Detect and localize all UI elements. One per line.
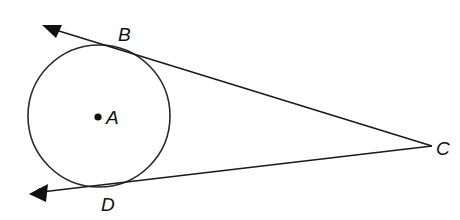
center-point-A <box>94 113 101 120</box>
diagram-canvas: B A C D <box>0 0 460 220</box>
tangent-circle-diagram: B A C D <box>0 0 460 220</box>
ray-CB <box>46 27 432 146</box>
ray-CD <box>33 146 432 193</box>
label-C: C <box>436 138 450 159</box>
label-B: B <box>118 24 131 45</box>
label-A: A <box>105 107 119 128</box>
arrowhead-D-icon <box>29 184 48 202</box>
label-D: D <box>101 194 115 215</box>
arrowhead-B-icon <box>42 25 62 38</box>
